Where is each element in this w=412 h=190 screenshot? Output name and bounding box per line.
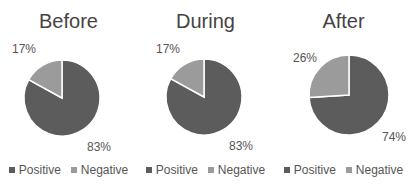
legend-swatch-negative [346,167,352,173]
legend-swatch-negative [208,167,214,173]
positive-percent-label: 83% [87,140,111,154]
pie-before [0,0,137,160]
legend-item-negative: Negative [71,163,128,177]
legend-label: Positive [19,163,61,177]
negative-percent-label: 17% [12,42,36,56]
legend-item-positive: Positive [284,163,336,177]
legend: PositiveNegative [275,163,412,177]
legend-swatch-positive [284,167,290,173]
negative-percent-label: 26% [293,51,317,65]
legend-label: Positive [156,163,198,177]
negative-percent-label: 17% [156,42,180,56]
legend: PositiveNegative [0,163,137,177]
pie-during [137,0,274,160]
legend: PositiveNegative [137,163,274,177]
legend-item-negative: Negative [208,163,265,177]
legend-label: Negative [81,163,128,177]
legend-item-negative: Negative [346,163,403,177]
chart-during: During 17% 83% PositiveNegative [137,0,274,190]
legend-item-positive: Positive [146,163,198,177]
legend-swatch-negative [71,167,77,173]
positive-percent-label: 83% [229,139,253,153]
legend-item-positive: Positive [9,163,61,177]
legend-label: Negative [356,163,403,177]
legend-label: Negative [218,163,265,177]
legend-swatch-positive [146,167,152,173]
positive-percent-label: 74% [382,130,406,144]
chart-before: Before 17% 83% PositiveNegative [0,0,137,190]
legend-swatch-positive [9,167,15,173]
legend-label: Positive [294,163,336,177]
chart-after: After 26% 74% PositiveNegative [275,0,412,190]
